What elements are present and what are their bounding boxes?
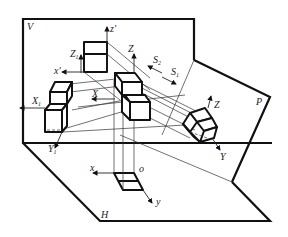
label-y: y bbox=[155, 196, 161, 207]
v-plane-projection bbox=[84, 42, 107, 72]
label-Z1: Z1 bbox=[70, 48, 79, 60]
label-P: P bbox=[255, 96, 262, 107]
label-S1: S1 bbox=[171, 66, 179, 78]
center-object bbox=[115, 73, 150, 120]
left-object bbox=[45, 82, 72, 132]
label-x-prime: x' bbox=[53, 65, 61, 76]
y-axis bbox=[143, 190, 152, 203]
s2-arrow bbox=[148, 66, 162, 73]
label-x: x bbox=[89, 162, 95, 173]
label-Z: Z bbox=[128, 43, 134, 54]
label-V: V bbox=[27, 21, 35, 32]
label-X: X bbox=[91, 88, 99, 99]
s1-arrow bbox=[162, 77, 176, 84]
label-Z-right: Z bbox=[214, 99, 220, 110]
axonometric-projection-diagram: V H P z' x' Z X Z1 X1 Y1 x o y Z Y S2 S1 bbox=[0, 0, 288, 237]
label-z-prime: z' bbox=[109, 23, 117, 34]
label-X1: X1 bbox=[31, 95, 41, 107]
Y1-axis bbox=[55, 132, 62, 148]
Z-right-axis bbox=[208, 96, 211, 108]
label-Y1: Y1 bbox=[48, 143, 57, 155]
label-H: H bbox=[100, 209, 109, 220]
label-Y-right: Y bbox=[220, 151, 227, 162]
label-o: o bbox=[139, 163, 144, 174]
label-S2: S2 bbox=[153, 54, 161, 66]
